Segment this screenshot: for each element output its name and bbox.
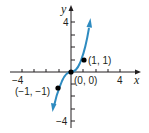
point-label-pos: (1, 1) <box>88 55 111 66</box>
point-label-neg: (−1, −1) <box>15 86 50 97</box>
curve-top-arrow-icon <box>87 18 93 28</box>
x-tick-label-neg4: −4 <box>12 75 24 86</box>
point-label-origin: (0, 0) <box>74 75 97 86</box>
y-tick-label-neg4: −4 <box>56 116 68 127</box>
x-axis-label: x <box>133 73 140 87</box>
x-tick-label-4: 4 <box>117 75 123 86</box>
cubic-function-graph: y x −4 4 4 −4 (−1, −1) (0, 0) (1, 1) <box>0 0 149 133</box>
y-axis-label: y <box>60 2 67 16</box>
point-1-1 <box>81 57 86 62</box>
point-origin <box>68 69 73 74</box>
point-neg1-neg1 <box>55 85 60 90</box>
y-axis-arrow-icon <box>69 5 74 11</box>
curve-bottom-arrow-icon <box>51 103 57 112</box>
y-tick-label-4: 4 <box>63 17 69 28</box>
